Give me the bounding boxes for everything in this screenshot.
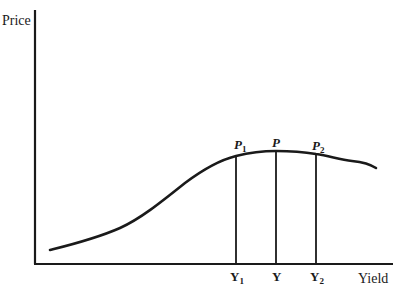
point-label-p2: P2	[312, 139, 324, 155]
tick-label-y: Y	[272, 270, 281, 283]
price-curve	[50, 151, 376, 250]
point-label-p: P	[272, 136, 280, 149]
price-yield-chart	[0, 0, 404, 294]
tick-label-y1: Y1	[230, 270, 244, 286]
x-axis-label: Yield	[358, 272, 388, 286]
y-axis-label: Price	[2, 14, 31, 28]
point-label-p1: P1	[234, 138, 246, 154]
tick-label-y2: Y2	[310, 270, 324, 286]
